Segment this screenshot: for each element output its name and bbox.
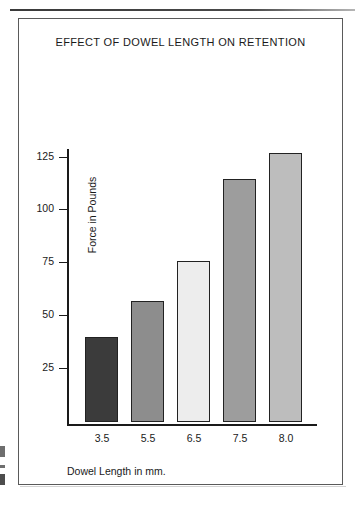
y-axis-tick: 100 — [59, 209, 67, 210]
y-axis-tick-label: 125 — [36, 150, 54, 162]
y-axis-tick: 125 — [59, 157, 67, 158]
x-axis-line — [67, 424, 317, 426]
figure-frame: EFFECT OF DOWEL LENGTH ON RETENTION Forc… — [18, 18, 343, 485]
x-axis-tick-label: 8.0 — [263, 432, 309, 444]
bar — [177, 261, 210, 422]
y-axis-tick-label: 100 — [36, 202, 54, 214]
x-axis-tick-label: 3.5 — [79, 432, 125, 444]
bar — [85, 337, 118, 422]
x-axis-tick-label: 6.5 — [171, 432, 217, 444]
page-edge-artifact-lower — [0, 474, 5, 485]
x-axis-tick-label: 7.5 — [217, 432, 263, 444]
x-axis-title: Dowel Length in mm. — [67, 465, 166, 477]
page-top-rule — [10, 9, 355, 11]
bar — [223, 179, 256, 422]
y-axis-tick: 25 — [59, 368, 67, 369]
y-axis-tick: 50 — [59, 315, 67, 316]
x-axis-tick-label: 5.5 — [125, 432, 171, 444]
y-axis-tick: 75 — [59, 262, 67, 263]
chart-title: EFFECT OF DOWEL LENGTH ON RETENTION — [19, 36, 342, 48]
bar-chart-plot-area: Force in Pounds 255075100125 3.55.56.57.… — [67, 149, 327, 424]
y-axis-tick-label: 25 — [42, 361, 54, 373]
y-axis-line — [67, 149, 69, 425]
bar — [131, 301, 164, 422]
y-axis-title: Force in Pounds — [86, 150, 98, 280]
y-axis-tick-label: 75 — [42, 255, 54, 267]
bar — [269, 153, 302, 422]
y-axis-tick-label: 50 — [42, 308, 54, 320]
page-edge-artifact-upper — [0, 446, 5, 457]
page-edge-artifact-middle — [0, 465, 5, 468]
